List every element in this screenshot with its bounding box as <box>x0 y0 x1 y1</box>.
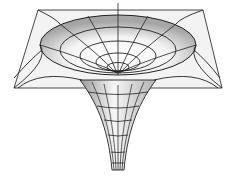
funnel-illustration <box>0 0 231 178</box>
gravity-well-diagram <box>0 0 231 178</box>
